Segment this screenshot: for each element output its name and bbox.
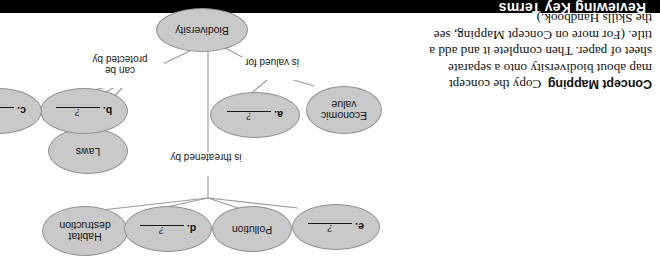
edge-label-is-threatened-by: is threatened by — [154, 152, 258, 175]
page-stage: Reviewing Key Terms Concept Mapping Copy… — [0, 0, 660, 274]
node-blank-e-rule: ? — [308, 223, 352, 233]
edge-label-can-be-protected-by-text: can be protected by — [92, 54, 147, 77]
node-blank-d-letter: d. — [187, 223, 196, 235]
node-blank-c-rule: ? — [0, 107, 14, 117]
edge-label-can-be-protected-by: can be protected by — [76, 54, 164, 89]
node-blank-d-value: ? — [159, 226, 165, 235]
concept-mapping-instructions: Concept Mapping Copy the concept map abo… — [424, 10, 652, 92]
edge-label-is-valued-for: is valued for — [228, 57, 316, 80]
node-blank-a[interactable]: a. ? — [210, 92, 300, 138]
node-biodiversity[interactable]: Biodiversity — [156, 8, 248, 52]
edge-label-is-threatened-by-text: is threatened by — [170, 153, 241, 164]
node-biodiversity-label: Biodiversity — [171, 24, 233, 36]
node-economic-value-label: Economic value — [317, 99, 371, 122]
node-habitat-destruction-label: Habitat destruction — [55, 220, 114, 243]
node-blank-b-rule: ? — [56, 107, 100, 117]
node-pollution[interactable]: Pollution — [212, 206, 292, 252]
node-pollution-label: Pollution — [228, 223, 276, 235]
node-blank-e-value: ? — [327, 224, 333, 233]
node-blank-a-rule: ? — [227, 111, 271, 121]
node-blank-a-value: ? — [246, 112, 252, 121]
concept-map: Biodiversity is valued for Economic valu… — [0, 0, 424, 274]
node-blank-b[interactable]: b. ? — [40, 88, 128, 134]
node-blank-d[interactable]: d. ? — [124, 206, 212, 252]
node-habitat-destruction[interactable]: Habitat destruction — [42, 206, 128, 256]
node-economic-value[interactable]: Economic value — [306, 86, 382, 134]
node-blank-c-letter: c. — [17, 105, 26, 117]
node-blank-e[interactable]: e. ? — [292, 204, 380, 250]
node-laws[interactable]: Laws — [48, 128, 128, 174]
instruction-label: Concept Mapping — [548, 77, 652, 91]
node-blank-b-value: ? — [75, 108, 81, 117]
node-blank-e-letter: e. — [355, 221, 364, 233]
node-laws-label: Laws — [72, 145, 105, 157]
node-blank-b-letter: b. — [103, 105, 112, 117]
node-blank-a-letter: a. — [274, 109, 283, 121]
node-blank-d-rule: ? — [140, 225, 184, 235]
edge-label-is-valued-for-text: is valued for — [245, 58, 299, 69]
